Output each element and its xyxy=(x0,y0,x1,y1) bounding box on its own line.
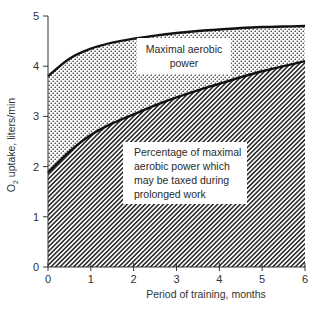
annotation-line: aerobic power which xyxy=(134,160,230,172)
annotation-line: power xyxy=(170,57,199,69)
x-axis-label: Period of training, months xyxy=(146,288,266,300)
x-tick-label: 6 xyxy=(302,273,308,285)
y-tick-label: 3 xyxy=(33,110,39,122)
y-tick-label: 2 xyxy=(33,161,39,173)
annotation-line: may be taxed during xyxy=(134,174,229,186)
y-tick-label: 5 xyxy=(33,10,39,22)
x-tick-label: 0 xyxy=(45,273,51,285)
y-axis: 012345 xyxy=(33,10,48,273)
y-axis-label-rest: uptake, liters/min xyxy=(5,98,17,180)
annotation-line: Maximal aerobic xyxy=(146,43,222,55)
x-tick-label: 2 xyxy=(131,273,137,285)
y-axis-label-o: O xyxy=(5,184,17,192)
annotation-line: prolonged work xyxy=(134,188,207,200)
x-tick-label: 3 xyxy=(173,273,179,285)
x-tick-label: 5 xyxy=(259,273,265,285)
annotation-maximal-aerobic-power: Maximal aerobic power xyxy=(137,38,231,74)
annotation-prolonged-work: Percentage of maximal aerobic power whic… xyxy=(123,142,247,204)
y-tick-label: 4 xyxy=(33,60,39,72)
x-tick-label: 1 xyxy=(88,273,94,285)
x-tick-label: 4 xyxy=(216,273,222,285)
annotation-line: Percentage of maximal xyxy=(134,146,241,158)
y-tick-label: 1 xyxy=(33,211,39,223)
y-axis-label: O2 uptake, liters/min xyxy=(5,98,19,193)
y-tick-label: 0 xyxy=(33,261,39,273)
chart: Maximal aerobic power Percentage of maxi… xyxy=(0,0,320,311)
